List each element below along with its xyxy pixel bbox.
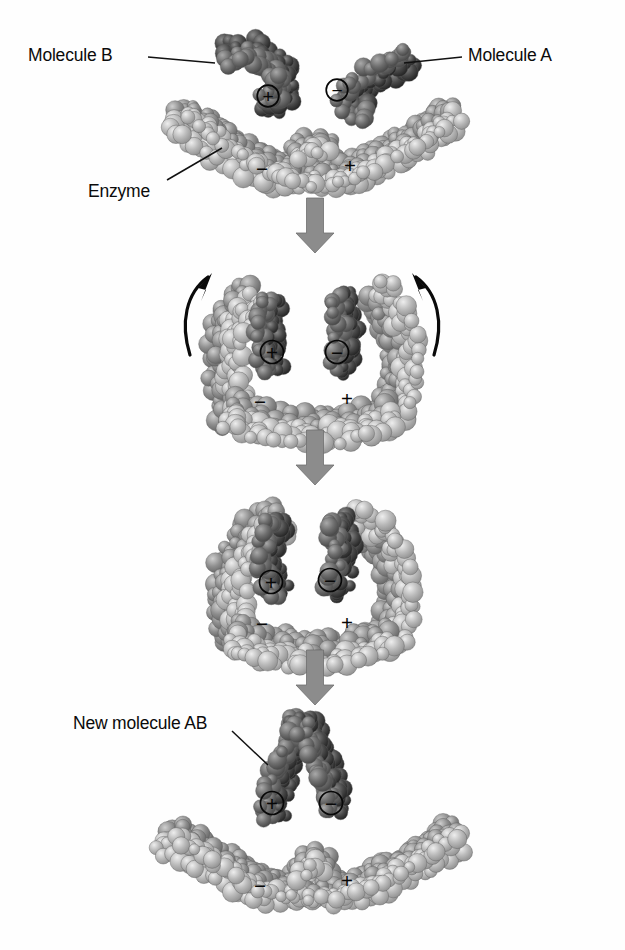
- charge-symbol: +: [341, 869, 353, 892]
- charge-symbol: +: [266, 341, 278, 364]
- annotation-overlay: +−−++−−++−−++−−+: [0, 0, 625, 950]
- label-new-molecule-ab: New molecule AB: [73, 713, 207, 734]
- left-curved-arrow: [185, 273, 212, 355]
- charge-symbol: +: [341, 611, 353, 634]
- arrow-stage1-to-stage2: [296, 198, 334, 253]
- charge-marker-negative: −: [256, 612, 268, 635]
- charge-marker-positive: +: [341, 611, 353, 634]
- leader-line-new-molecule-ab: [232, 731, 268, 765]
- charge-marker-positive: +: [260, 340, 283, 364]
- charge-marker-negative: −: [254, 390, 266, 413]
- charge-symbol: +: [266, 792, 278, 815]
- charge-marker-positive: +: [341, 387, 353, 410]
- arrow-stage2-to-stage3: [296, 430, 334, 485]
- charge-marker-positive: +: [344, 154, 356, 177]
- label-molecule-b: Molecule B: [28, 45, 113, 66]
- leader-line-molecule-b: [148, 57, 215, 63]
- charge-symbol: −: [254, 390, 266, 413]
- charge-symbol: −: [331, 341, 343, 364]
- charge-marker-negative: −: [326, 79, 348, 101]
- arrow-stage3-to-stage4: [296, 650, 334, 705]
- right-curved-arrow: [412, 273, 439, 355]
- leader-line-molecule-a: [404, 57, 462, 63]
- charge-marker-positive: +: [259, 570, 282, 594]
- charge-symbol: −: [331, 80, 342, 101]
- charge-marker-negative: −: [254, 874, 266, 897]
- charge-symbol: −: [325, 792, 337, 815]
- charge-marker-positive: +: [341, 869, 353, 892]
- charge-symbol: +: [341, 387, 353, 410]
- charge-symbol: −: [254, 874, 266, 897]
- leader-line-enzyme: [167, 148, 222, 180]
- label-molecule-a: Molecule A: [468, 45, 552, 66]
- charge-marker-positive: +: [257, 85, 279, 107]
- figure-canvas: +−−++−−++−−++−−+ Molecule BMolecule AEnz…: [0, 0, 625, 950]
- charge-marker-negative: −: [319, 791, 342, 815]
- charge-symbol: −: [256, 612, 268, 635]
- charge-symbol: +: [262, 86, 273, 107]
- charge-symbol: −: [324, 569, 336, 592]
- charge-symbol: +: [265, 571, 277, 594]
- charge-marker-negative: −: [325, 340, 348, 364]
- charge-symbol: −: [256, 157, 268, 180]
- charge-marker-positive: +: [260, 791, 283, 815]
- charge-marker-negative: −: [318, 568, 341, 592]
- charge-marker-negative: −: [256, 157, 268, 180]
- label-enzyme: Enzyme: [88, 181, 150, 202]
- charge-symbol: +: [344, 154, 356, 177]
